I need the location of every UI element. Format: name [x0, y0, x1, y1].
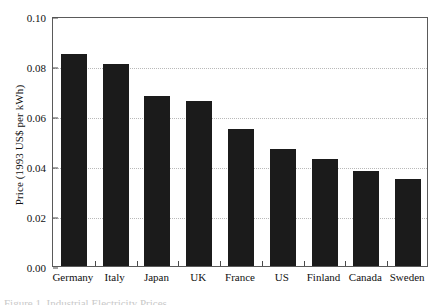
bar-slot [387, 18, 429, 266]
x-tick-mark [137, 261, 138, 266]
bar-slot [220, 18, 262, 266]
x-tick-label-finland: Finland [303, 271, 345, 283]
bar [270, 149, 296, 267]
y-axis-title: Price (1993 US$ per kWh) [13, 30, 25, 260]
figure-caption: Figure 1. Industrial Electricity Prices [4, 297, 440, 305]
x-tick-label-france: France [219, 271, 261, 283]
x-tick-label-italy: Italy [94, 271, 136, 283]
bar-slot [53, 18, 95, 266]
x-tick-mark [262, 261, 263, 266]
y-tick-label: 0.08 [27, 62, 46, 74]
bar-slot [304, 18, 346, 266]
x-tick-label-sweden: Sweden [386, 271, 428, 283]
y-tick-label: 0.10 [27, 12, 46, 24]
y-tick-mark [53, 268, 58, 269]
bar-slot [262, 18, 304, 266]
y-tick-label: 0.02 [27, 212, 46, 224]
x-tick-mark [304, 261, 305, 266]
x-tick-label-germany: Germany [52, 271, 94, 283]
y-tick-label: 0.04 [27, 162, 46, 174]
y-tick-label: 0.00 [27, 262, 46, 274]
x-tick-mark [220, 261, 221, 266]
plot-area: 0.000.020.040.060.080.10 [52, 17, 428, 267]
bar-slot [178, 18, 220, 266]
bar [103, 64, 129, 267]
bar [144, 96, 170, 266]
bar-slot [345, 18, 387, 266]
bar-chart-figure: Price (1993 US$ per kWh) 0.000.020.040.0… [0, 0, 444, 305]
bar [312, 159, 338, 267]
bar [395, 179, 421, 267]
x-tick-label-uk: UK [177, 271, 219, 283]
y-tick-label: 0.06 [27, 112, 46, 124]
bar [61, 54, 87, 267]
x-tick-mark [178, 261, 179, 266]
bar-slot [137, 18, 179, 266]
bar [353, 171, 379, 266]
x-tick-label-us: US [261, 271, 303, 283]
bar [186, 101, 212, 266]
x-tick-label-japan: Japan [136, 271, 178, 283]
x-tick-mark [345, 261, 346, 266]
x-tick-mark [95, 261, 96, 266]
bar-series [53, 18, 427, 266]
bar-slot [95, 18, 137, 266]
x-tick-mark [387, 261, 388, 266]
bar [228, 129, 254, 267]
x-tick-label-canada: Canada [344, 271, 386, 283]
